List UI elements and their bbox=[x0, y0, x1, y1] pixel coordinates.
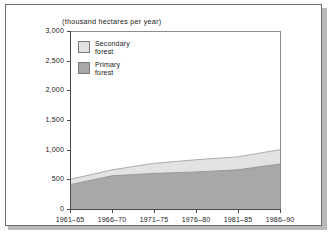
x-tick-label: 1976–80 bbox=[182, 216, 211, 223]
y-tick-mark bbox=[67, 179, 71, 180]
figure-root: (thousand hectares per year) Secondary f… bbox=[0, 0, 333, 236]
chart-title: (thousand hectares per year) bbox=[62, 17, 161, 26]
y-tick-mark bbox=[67, 31, 71, 32]
x-tick-mark bbox=[70, 209, 71, 213]
plot-area bbox=[70, 31, 280, 209]
x-tick-mark bbox=[112, 209, 113, 213]
y-tick-label: 2,500 bbox=[26, 57, 64, 64]
x-tick-mark bbox=[280, 209, 281, 213]
y-tick-label: 1,000 bbox=[26, 146, 64, 153]
stacked-area-series-group bbox=[70, 31, 280, 209]
plot-frame-top-border bbox=[70, 31, 280, 32]
y-tick-label: 500 bbox=[26, 175, 64, 182]
x-tick-label: 1986–90 bbox=[266, 216, 295, 223]
x-tick-label: 1971–75 bbox=[140, 216, 169, 223]
x-tick-mark bbox=[154, 209, 155, 213]
y-tick-mark bbox=[67, 150, 71, 151]
x-tick-mark bbox=[196, 209, 197, 213]
x-tick-label: 1966–70 bbox=[98, 216, 127, 223]
y-tick-mark bbox=[67, 61, 71, 62]
y-tick-mark bbox=[67, 90, 71, 91]
x-axis-line bbox=[70, 209, 281, 210]
y-tick-label: 0 bbox=[26, 205, 64, 212]
y-tick-label: 3,000 bbox=[26, 27, 64, 34]
plot-frame-right-border bbox=[280, 31, 281, 209]
y-tick-label: 2,000 bbox=[26, 86, 64, 93]
y-tick-mark bbox=[67, 120, 71, 121]
x-tick-mark bbox=[238, 209, 239, 213]
x-tick-label: 1961–65 bbox=[56, 216, 85, 223]
y-tick-label: 1,500 bbox=[26, 116, 64, 123]
x-tick-label: 1981–85 bbox=[224, 216, 253, 223]
